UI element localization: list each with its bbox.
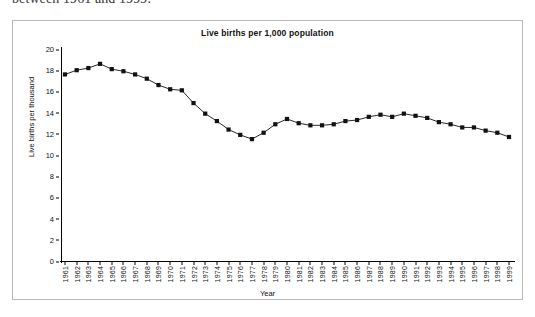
y-tick-18: 18 [46,66,61,75]
y-tick-6: 6 [50,193,61,202]
data-point-1982 [308,123,312,127]
x-tick-1997: 1997 [482,262,489,282]
x-tick-1985: 1985 [342,262,349,282]
data-point-1995 [460,125,464,129]
x-tick-1996: 1996 [470,262,477,282]
x-tick-1984: 1984 [330,262,337,282]
x-tick-1975: 1975 [225,262,232,282]
x-tick-1994: 1994 [447,262,454,282]
figure-frame: Live births per 1,000 population Live bi… [12,20,523,300]
data-point-1976 [238,133,242,137]
x-tick-1993: 1993 [435,262,442,282]
data-point-1989 [390,115,394,119]
x-tick-1990: 1990 [400,262,407,282]
y-axis-label: Live births per thousand [27,77,36,157]
data-point-1997 [484,129,488,133]
x-tick-1981: 1981 [295,262,302,282]
intro-text: between 1961 and 1999. [12,0,151,7]
data-point-1969 [156,83,160,87]
data-point-1962 [75,68,79,72]
x-tick-1972: 1972 [190,262,197,282]
data-point-1974 [215,119,219,123]
data-point-1993 [437,120,441,124]
data-point-1971 [180,88,184,92]
x-tick-1963: 1963 [85,262,92,282]
x-tick-1998: 1998 [494,262,501,282]
y-tick-0: 0 [50,257,61,266]
data-point-1977 [250,137,254,141]
data-point-1984 [332,122,336,126]
data-point-1992 [425,116,429,120]
x-tick-1995: 1995 [459,262,466,282]
series-markers [63,62,511,141]
plot-area [61,49,513,261]
y-tick-16: 16 [46,87,61,96]
data-point-1985 [343,119,347,123]
data-point-1966 [121,69,125,73]
x-tick-1968: 1968 [143,262,150,282]
data-point-1963 [86,66,90,70]
x-axis-label: Year [13,289,522,298]
data-point-1961 [63,72,67,76]
y-tick-2: 2 [50,235,61,244]
data-point-1983 [320,123,324,127]
x-tick-1976: 1976 [237,262,244,282]
x-tick-1969: 1969 [155,262,162,282]
x-tick-1964: 1964 [97,262,104,282]
data-point-1979 [273,122,277,126]
data-point-1980 [285,117,289,121]
chart-title: Live births per 1,000 population [13,28,522,38]
x-tick-1966: 1966 [120,262,127,282]
x-tick-1999: 1999 [506,262,513,282]
x-tick-1987: 1987 [365,262,372,282]
x-tick-1973: 1973 [202,262,209,282]
x-tick-1967: 1967 [132,262,139,282]
y-tick-8: 8 [50,172,61,181]
data-point-1973 [203,112,207,116]
data-point-1998 [495,131,499,135]
data-point-1967 [133,72,137,76]
data-point-1994 [448,122,452,126]
data-point-1970 [168,87,172,91]
x-tick-1986: 1986 [354,262,361,282]
x-tick-1989: 1989 [389,262,396,282]
data-point-1975 [226,127,230,131]
data-point-1996 [472,125,476,129]
data-point-1999 [507,135,511,139]
x-tick-1982: 1982 [307,262,314,282]
data-point-1964 [98,62,102,66]
x-tick-1992: 1992 [424,262,431,282]
data-point-1986 [355,118,359,122]
y-tick-12: 12 [46,129,61,138]
data-point-1990 [402,112,406,116]
data-point-1987 [367,115,371,119]
x-tick-1983: 1983 [319,262,326,282]
data-point-1978 [262,131,266,135]
data-point-1965 [110,67,114,71]
y-tick-20: 20 [46,45,61,54]
data-point-1991 [413,114,417,118]
x-tick-1965: 1965 [108,262,115,282]
data-point-1988 [378,113,382,117]
y-tick-10: 10 [46,151,61,160]
x-tick-1962: 1962 [73,262,80,282]
y-tick-14: 14 [46,108,61,117]
data-point-1981 [297,121,301,125]
series-line [65,64,509,139]
x-tick-1971: 1971 [178,262,185,282]
data-point-1972 [191,101,195,105]
x-tick-1961: 1961 [62,262,69,282]
x-tick-1977: 1977 [248,262,255,282]
births-line-series [61,49,513,261]
x-tick-1974: 1974 [213,262,220,282]
x-tick-1979: 1979 [272,262,279,282]
x-tick-1991: 1991 [412,262,419,282]
x-tick-1988: 1988 [377,262,384,282]
y-tick-4: 4 [50,214,61,223]
x-tick-1980: 1980 [284,262,291,282]
x-tick-1970: 1970 [167,262,174,282]
data-point-1968 [145,77,149,81]
x-tick-1978: 1978 [260,262,267,282]
